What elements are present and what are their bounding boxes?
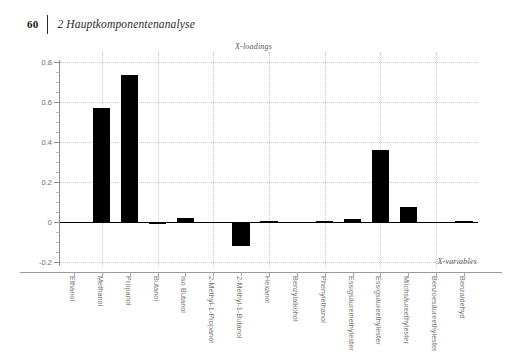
x-tick-label: Ethanol xyxy=(68,276,77,301)
y-tick-label: 0.6 xyxy=(42,98,52,107)
y-tick-label: 0 xyxy=(48,218,52,227)
chart-title: X-loadings xyxy=(0,42,507,51)
bar xyxy=(455,221,472,222)
y-tick-mark xyxy=(54,182,60,183)
y-minor-tick xyxy=(56,242,60,243)
bar xyxy=(205,222,222,223)
y-tick-label: 0.2 xyxy=(42,178,52,187)
bar xyxy=(232,222,249,246)
gridline-vertical xyxy=(213,52,214,268)
y-tick-label: -0.2 xyxy=(39,258,52,267)
x-tick-label: Essigsäureethylester xyxy=(374,276,383,345)
bar xyxy=(316,221,333,222)
y-minor-tick xyxy=(56,192,60,193)
bar xyxy=(344,219,361,222)
y-minor-tick xyxy=(56,112,60,113)
bar xyxy=(93,108,110,222)
x-tick-label: Benzaldehyd xyxy=(458,276,467,319)
bar xyxy=(177,218,194,222)
bar xyxy=(260,221,277,222)
y-minor-tick xyxy=(56,212,60,213)
y-minor-tick xyxy=(56,92,60,93)
bar xyxy=(149,222,166,224)
gridline-vertical xyxy=(269,52,270,268)
bar xyxy=(372,150,389,222)
y-minor-tick xyxy=(56,252,60,253)
y-minor-tick xyxy=(56,132,60,133)
bar xyxy=(400,207,417,222)
y-minor-tick xyxy=(56,72,60,73)
gridline-horizontal xyxy=(60,262,478,263)
x-axis-line xyxy=(20,272,502,273)
x-axis-label: X-variables xyxy=(437,257,477,266)
x-tick-label: Hexanol xyxy=(263,276,272,303)
x-tick-label: Essigsäuremethylester xyxy=(347,276,356,351)
gridline-vertical xyxy=(325,52,326,268)
y-minor-tick xyxy=(56,162,60,163)
x-tick-label: 2-Methyl-1-Butanol xyxy=(235,276,244,339)
y-minor-tick xyxy=(56,152,60,153)
x-tick-label: Propanol xyxy=(124,276,133,306)
x-tick-label: Milchsäureethylester xyxy=(402,276,411,344)
y-tick-mark xyxy=(54,222,60,223)
x-tick-label: Butanol xyxy=(152,276,161,301)
x-tick-label: 2-Methyl-1-Propanol xyxy=(207,276,216,343)
x-loadings-bar-chart: X-loadings X-variables -0.200.20.40.60.8… xyxy=(0,0,507,357)
x-tick-label: Phenylethanol xyxy=(319,276,328,323)
gridline-vertical xyxy=(436,52,437,268)
y-minor-tick xyxy=(56,232,60,233)
y-minor-tick xyxy=(56,202,60,203)
x-tick-label: Benzoesäureethylester xyxy=(430,276,439,352)
bar xyxy=(288,222,305,223)
y-minor-tick xyxy=(56,172,60,173)
bar xyxy=(428,222,445,223)
y-tick-label: 0.4 xyxy=(42,138,52,147)
gridline-horizontal xyxy=(60,62,478,63)
y-tick-mark xyxy=(54,262,60,263)
y-minor-tick xyxy=(56,82,60,83)
bar xyxy=(65,222,82,223)
y-tick-mark xyxy=(54,62,60,63)
gridline-vertical xyxy=(158,52,159,268)
bar xyxy=(121,75,138,222)
x-tick-label: Iso Butanol xyxy=(179,276,188,313)
y-tick-mark xyxy=(54,142,60,143)
x-tick-label: Methanol xyxy=(96,276,105,306)
y-axis-line xyxy=(59,60,60,266)
y-tick-mark xyxy=(54,102,60,103)
y-minor-tick xyxy=(56,122,60,123)
x-tick-label: Benzylalkohol xyxy=(291,276,300,322)
y-tick-label: 0.8 xyxy=(42,58,52,67)
